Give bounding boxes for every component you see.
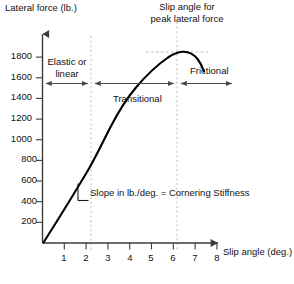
caption-strip [0,270,294,284]
y-tick-label-600: 600 [7,175,37,186]
y-tick-label-1600: 1600 [2,72,32,83]
x-axis-title: Slip angle (deg.) [223,247,292,258]
region-label-frictional: Frictional [190,66,229,77]
chart-canvas [0,0,294,284]
x-axis-ticks [64,243,217,250]
y-tick-label-400: 400 [7,196,37,207]
region-label-elastic-line-1: Elastic or [44,57,90,68]
x-tick-label-4: 4 [123,253,137,264]
x-tick-label-6: 6 [166,253,180,264]
x-tick-label-8: 8 [210,253,224,264]
peak-callout-line-2: peak lateral force [139,14,235,25]
y-tick-label-1400: 1400 [2,92,32,103]
lateral-force-curve [44,52,205,243]
x-tick-label-2: 2 [79,253,93,264]
region-label-elastic-line-2: linear [44,69,90,80]
peak-callout-line-1: Slip angle for [139,2,235,13]
y-tick-label-1200: 1200 [2,113,32,124]
y-tick-label-1800: 1800 [2,51,32,62]
slope-annotation: Slope in lb./deg. = Cornering Stiffness [90,188,250,199]
x-tick-label-5: 5 [144,253,158,264]
y-tick-label-1000: 1000 [2,134,32,145]
x-tick-label-7: 7 [188,253,202,264]
y-tick-label-800: 800 [7,154,37,165]
y-axis-title: Lateral force (lb.) [5,3,77,14]
chart-figure: Lateral force (lb.) Slip angle (deg.) 18… [0,0,294,284]
x-tick-label-1: 1 [57,253,71,264]
y-tick-label-200: 200 [7,216,37,227]
region-label-transitional: Transitional [113,94,162,105]
x-tick-label-3: 3 [101,253,115,264]
